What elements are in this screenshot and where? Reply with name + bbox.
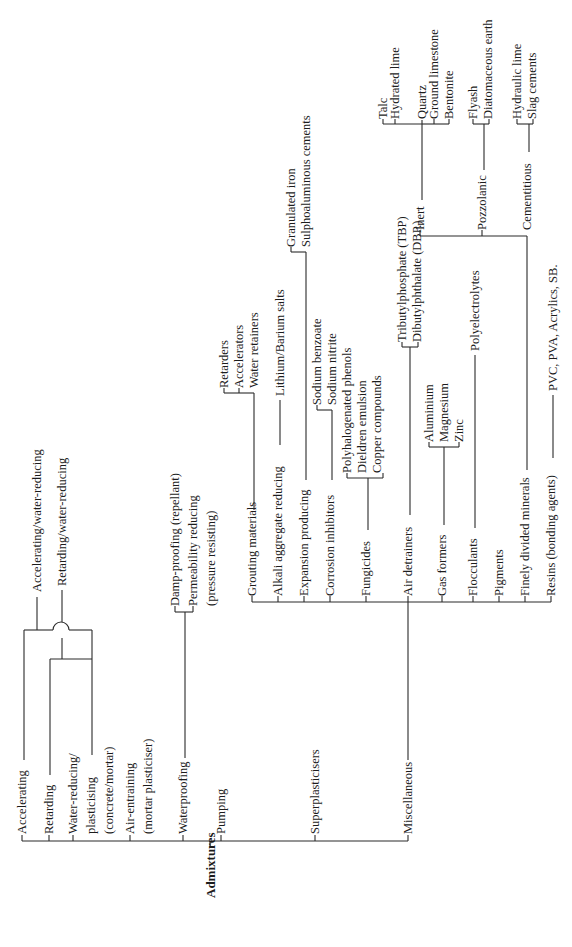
expansion-granulated-iron: Granulated iron [284,167,298,247]
misc-fungicides: Fungicides [359,541,373,596]
finely-pozzolanic: Pozzolanic [475,175,489,230]
air-detrainers-dbp: Dibutylphthalate (DBP.) [410,220,424,342]
branch-water-reducing-line1: Water-reducing/ [66,753,80,834]
branch-air-entraining-line1: Air-entraining [123,762,137,834]
finely-cementitious: Cementitious [520,163,534,230]
branch-waterproofing: Waterproofing [176,761,190,834]
cementitious-slag-cements: Slag cements [525,53,539,119]
damp-proofing-label: Damp-proofing (repellant) [168,473,182,606]
branch-retarding: Retarding [42,784,56,834]
inert-ground-limestone: Ground limestone [427,29,441,119]
alkali-lithium-barium: Lithium/Barium salts [273,289,287,396]
misc-pigments: Pigments [492,549,506,596]
gas-formers-aluminium: Aluminium [422,384,436,442]
admixtures-classification-diagram: Admixtures Accelerating Retarding Water-… [0,0,572,947]
grouting-connectors [224,388,254,510]
branch-pumping: Pumping [214,788,228,834]
resins-types: PVC, PVA, Acrylics, SB. [546,264,560,391]
pozzolanic-connectors [473,119,489,170]
misc-corrosion: Corrosion inhibitors [323,495,337,596]
finely-inert: Inert [413,206,427,230]
corrosion-connectors [317,405,332,480]
corrosion-sodium-nitrite: Sodium nitrite [325,333,339,405]
gas-formers-zinc: Zinc [452,419,466,442]
fungicides-copper: Copper compounds [370,375,384,473]
cementitious-hydraulic-lime: Hydraulic lime [510,43,524,119]
expansion-sulphoaluminous: Sulphoaluminous cements [299,115,313,247]
misc-flocculants: Flocculants [466,538,480,596]
pozzolanic-flyash: Flyash [466,85,480,119]
fungicides-polyhalogenated: Polyhalogenated phenols [340,348,354,473]
combination-connectors [24,590,92,775]
misc-resins: Resins (bonding agents) [544,475,558,596]
fungicides-connectors [347,473,383,530]
misc-air-detrainers: Air detrainers [401,527,415,596]
branch-air-entraining-line2: (mortar plasticiser) [141,739,155,834]
misc-grouting: Grouting materials [245,502,259,596]
expansion-connectors [291,247,306,480]
air-detrainers-connectors [402,342,418,515]
fungicides-dieldren: Dieldren emulsion [355,380,369,473]
misc-gas-formers: Gas formers [435,534,449,596]
waterproofing-connectors [175,606,193,758]
gas-formers-connectors [429,442,459,525]
grouting-accelerators: Accelerators [232,325,246,388]
grouting-retarders: Retarders [217,340,231,388]
corrosion-sodium-benzoate: Sodium benzoate [310,318,324,405]
inert-bentonite: Bentonite [442,70,456,119]
misc-finely-divided: Finely divided minerals [518,477,532,596]
inert-hydrated-lime: Hydrated lime [388,47,402,119]
permeability-reducing-line2: (pressure resisting) [204,511,218,606]
cementitious-connectors [517,119,533,152]
flocculants-polyelectrolytes: Polyelectrolytes [468,270,482,351]
inert-connectors [383,119,449,200]
pozzolanic-diatomaceous: Diatomaceous earth [481,19,495,119]
misc-expansion: Expansion producing [297,489,311,596]
combo-accelerating-water-reducing: Accelerating/water-reducing [30,449,44,592]
combo-retarding-water-reducing: Retarding/water-reducing [55,457,69,586]
permeability-reducing-line1: Permeability reducing [186,495,200,606]
air-detrainers-tbp: Tributylphosphate (TBP) [395,216,409,342]
branch-superplasticisers: Superplasticisers [308,749,322,834]
branch-water-reducing-line3: (concrete/mortar) [102,747,116,834]
misc-alkali-aggregate: Alkali aggregate reducing [271,465,285,596]
gas-formers-magnesium: Magnesium [437,383,451,442]
root-label-admixtures: Admixtures [203,833,218,898]
branch-miscellaneous: Miscellaneous [401,762,415,834]
grouting-water-retainers: Water retainers [247,312,261,388]
branch-accelerating: Accelerating [15,769,29,834]
branch-water-reducing-line2: plasticising [84,776,98,834]
miscellaneous-bar [252,596,551,760]
